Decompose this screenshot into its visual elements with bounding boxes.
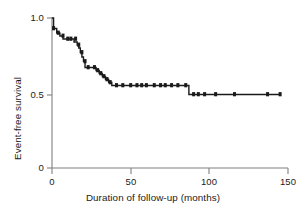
censor-mark: [214, 92, 217, 96]
censor-mark: [135, 83, 138, 87]
censor-mark: [170, 83, 173, 87]
x-tick-label-0: 0: [38, 176, 66, 187]
axis-group: [47, 17, 288, 174]
survival-step-curve: [52, 18, 280, 95]
censor-mark: [93, 65, 96, 69]
censor-mark: [140, 83, 143, 87]
censor-mark: [52, 26, 55, 30]
censor-mark: [77, 43, 80, 47]
y-tick-label-1: 1.0: [21, 12, 44, 23]
censor-mark: [69, 37, 72, 41]
censor-mark: [129, 83, 132, 87]
censor-mark: [233, 92, 236, 96]
y-tick-label-05: 0.5: [21, 89, 44, 100]
censor-mark: [176, 83, 179, 87]
x-tick-label-100: 100: [195, 176, 223, 187]
censor-mark: [80, 50, 83, 54]
censor-mark: [96, 68, 99, 72]
censor-mark: [192, 92, 195, 96]
censor-mark: [102, 74, 105, 78]
censor-mark: [74, 37, 77, 41]
censor-mark: [145, 83, 148, 87]
censor-mark: [159, 83, 162, 87]
censor-mark: [84, 59, 87, 63]
censor-mark: [62, 34, 65, 38]
censor-mark: [266, 92, 269, 96]
censor-mark: [121, 83, 124, 87]
censor-mark: [197, 92, 200, 96]
censor-mark: [279, 92, 282, 96]
x-tick-label-50: 50: [117, 176, 145, 187]
censor-mark: [106, 77, 109, 81]
censor-mark: [57, 31, 60, 35]
kaplan-meier-figure: 1.0 0.5 0 0 50 100 150 Duration of follo…: [0, 0, 306, 213]
x-axis-title: Duration of follow-up (months): [0, 192, 306, 203]
censor-mark: [115, 83, 118, 87]
censor-mark: [66, 37, 69, 41]
y-tick-label-0: 0: [21, 162, 44, 173]
x-tick-label-150: 150: [274, 176, 302, 187]
censor-mark: [184, 83, 187, 87]
y-axis-title: Event-free survival: [12, 77, 23, 160]
censor-mark: [109, 80, 112, 84]
censor-mark: [99, 71, 102, 75]
censor-mark: [203, 92, 206, 96]
censor-mark: [164, 83, 167, 87]
censor-mark: [153, 83, 156, 87]
censor-mark: [87, 65, 90, 69]
